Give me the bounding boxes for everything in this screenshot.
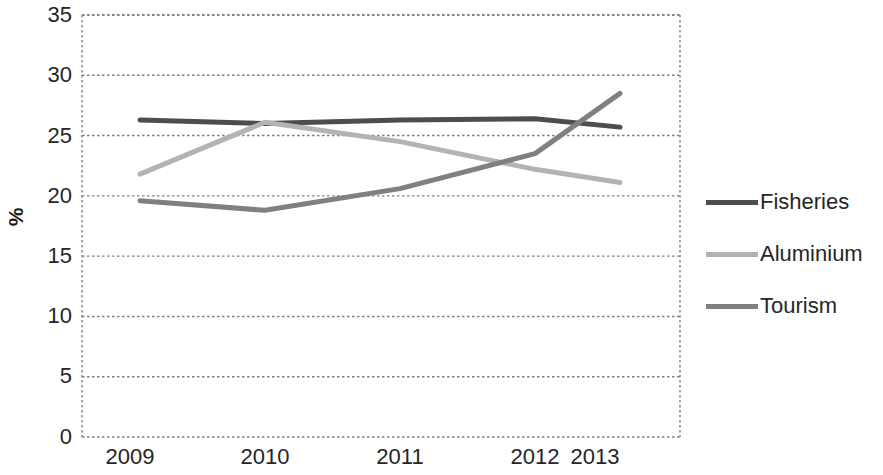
series-line-tourism: [140, 93, 620, 210]
legend-item-aluminium[interactable]: Aluminium: [706, 228, 881, 280]
legend-swatch-aluminium: [706, 252, 758, 257]
chart-legend: Fisheries Aluminium Tourism: [706, 176, 881, 332]
plot-border: [82, 15, 680, 437]
series-lines: [140, 93, 620, 210]
legend-swatch-tourism: [706, 304, 758, 309]
legend-label-fisheries: Fisheries: [760, 191, 849, 213]
legend-swatch-fisheries: [706, 200, 758, 205]
y-tick-25: 25: [16, 125, 72, 147]
y-tick-10: 10: [16, 305, 72, 327]
y-tick-15: 15: [16, 245, 72, 267]
legend-label-tourism: Tourism: [760, 295, 837, 317]
y-tick-20: 20: [16, 185, 72, 207]
y-tick-30: 30: [16, 64, 72, 86]
line-chart: % 35 30 25 20 15 10 5 0 2009 2010 2011 2…: [0, 0, 883, 475]
x-tick-2013: 2013: [550, 446, 640, 468]
x-tick-2009: 2009: [85, 446, 175, 468]
series-line-aluminium: [140, 122, 620, 182]
legend-item-tourism[interactable]: Tourism: [706, 280, 881, 332]
series-line-fisheries: [140, 119, 620, 127]
y-tick-35: 35: [16, 4, 72, 26]
y-axis-tick-labels: 35 30 25 20 15 10 5 0: [8, 0, 72, 475]
x-tick-2010: 2010: [220, 446, 310, 468]
y-tick-5: 5: [16, 365, 72, 387]
y-tick-0: 0: [16, 426, 72, 448]
legend-label-aluminium: Aluminium: [760, 243, 863, 265]
legend-item-fisheries[interactable]: Fisheries: [706, 176, 881, 228]
x-tick-2011: 2011: [355, 446, 445, 468]
gridlines: [82, 15, 680, 437]
